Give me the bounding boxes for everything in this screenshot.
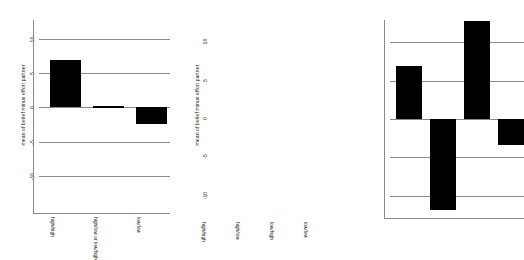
y-axis-spine	[33, 20, 34, 213]
x-tick-label-high-high: high/high	[200, 222, 206, 242]
chart-panel-left: mean of belief minus effort partner 10 5…	[0, 0, 178, 258]
y-tick-label: -10	[29, 170, 36, 184]
y-tick-label: 5	[29, 67, 36, 81]
y-axis-spine	[384, 20, 385, 218]
x-tick-label-low-low: low/low	[135, 217, 141, 233]
bar-low-high	[464, 21, 490, 119]
y-axis-label: mean of belief minus effort partner	[18, 20, 29, 190]
y-tick-label: 0	[29, 101, 36, 115]
x-axis-spine	[384, 218, 524, 219]
y-tick-label: -10	[202, 189, 209, 203]
bar-high-low	[430, 119, 456, 210]
x-tick-label-low-high: low/high	[268, 222, 274, 240]
gridline-10	[390, 42, 524, 43]
gridline--5	[39, 142, 170, 143]
chart-panel-right: mean of belief minus effort partner 10 5…	[178, 0, 355, 258]
plot-area-right	[390, 20, 524, 218]
plot-area-left	[39, 20, 170, 213]
x-tick-label-high-high: high/high	[49, 217, 55, 237]
y-tick-label: 5	[202, 74, 209, 88]
y-tick-label: 10	[202, 35, 209, 49]
y-tick-label: 10	[29, 33, 36, 47]
x-tick-label-mixed: high/low or low/high	[92, 217, 98, 260]
x-tick-label-low-low: low/low	[302, 222, 308, 238]
x-axis-spine	[33, 213, 170, 214]
gridline--10	[39, 176, 170, 177]
y-tick-label: -5	[202, 150, 209, 164]
gridline-10	[39, 39, 170, 40]
bar-mixed	[93, 106, 124, 108]
y-tick-label: 0	[202, 112, 209, 126]
bar-low-low	[498, 119, 524, 145]
bar-low-low	[136, 107, 167, 124]
gridline--5	[390, 157, 524, 158]
bar-high-high	[50, 60, 81, 107]
gridline--10	[390, 196, 524, 197]
y-tick-label: -5	[29, 136, 36, 150]
x-tick-label-high-low: high/low	[234, 222, 240, 240]
bar-high-high	[396, 66, 422, 119]
